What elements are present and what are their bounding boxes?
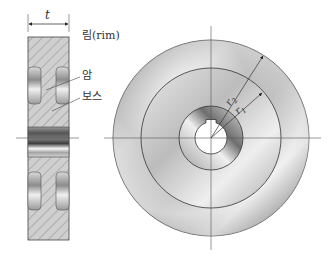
rim-label: 림(rim) (82, 30, 120, 41)
arm-label: 암 (82, 70, 92, 81)
front-view (104, 26, 321, 250)
lower-left-recess (28, 172, 41, 210)
upper-left-recess (28, 67, 41, 104)
cross-section-view (16, 14, 80, 240)
flywheel-diagram (0, 0, 335, 261)
lower-right-recess (56, 172, 69, 210)
thickness-label: t (45, 9, 50, 21)
boss-label: 보스 (82, 91, 102, 102)
bore-section (28, 127, 69, 157)
